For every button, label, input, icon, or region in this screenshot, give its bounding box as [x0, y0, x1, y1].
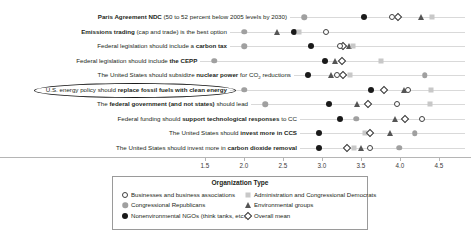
- data-point: [367, 145, 373, 151]
- data-point: [241, 87, 247, 93]
- data-point: [405, 87, 411, 93]
- legend-item: Businesses and business associations: [119, 190, 242, 199]
- data-point: [366, 129, 374, 137]
- legend-marker-icon: [242, 200, 254, 209]
- data-point: [348, 73, 353, 78]
- x-tick: [283, 157, 284, 161]
- x-tick: [322, 157, 323, 161]
- triangle-icon: [245, 202, 251, 208]
- legend-item: Administration and Congressional Democra…: [242, 190, 365, 199]
- data-point: [337, 116, 343, 122]
- data-point: [316, 145, 322, 151]
- data-point: [323, 29, 329, 35]
- scatter-plot-area: Paris Agreement NDC (50 to 52 percent be…: [0, 0, 471, 175]
- data-point: [396, 145, 402, 151]
- row-guide-line: [230, 32, 465, 33]
- data-point: [368, 87, 374, 93]
- data-point: [241, 43, 247, 49]
- row-guide-line: [300, 148, 465, 149]
- data-point: [338, 56, 346, 64]
- category-label: Federal legislation should include the C…: [76, 57, 197, 64]
- data-point: [354, 116, 360, 122]
- category-label: The United States should invest more in …: [116, 144, 297, 151]
- gray-circle-icon: [122, 203, 128, 209]
- legend-item: Congressional Republicans: [119, 200, 242, 209]
- category-label: U.S. energy policy should replace fossil…: [46, 86, 227, 93]
- legend-row: Nonenvironmental NGOs (think tanks, etc.…: [119, 210, 365, 221]
- row-guide-line: [300, 119, 465, 120]
- data-point: [339, 71, 347, 79]
- category-label: Federal funding should support technolog…: [117, 115, 297, 122]
- black-circle-icon: [122, 213, 128, 219]
- x-tick-label: 2.0: [240, 162, 249, 169]
- legend-label: Environmental groups: [254, 201, 313, 208]
- data-point: [379, 58, 384, 63]
- x-tick: [244, 157, 245, 161]
- data-point: [326, 101, 332, 107]
- legend-items: Businesses and business associationsAdmi…: [119, 189, 365, 221]
- category-label: The United States should subsidize nucle…: [98, 71, 291, 81]
- legend-marker-icon: [119, 200, 131, 209]
- data-point: [392, 116, 398, 122]
- legend-marker-icon: [119, 190, 131, 199]
- data-point: [212, 58, 218, 64]
- legend-label: Overall mean: [254, 212, 290, 219]
- x-tick-label: 4.5: [435, 162, 444, 169]
- legend-item: Nonenvironmental NGOs (think tanks, etc.…: [119, 211, 242, 220]
- open-circle-icon: [122, 192, 128, 198]
- data-point: [343, 143, 351, 151]
- data-point: [262, 101, 268, 107]
- legend-label: Nonenvironmental NGOs (think tanks, etc.…: [131, 212, 247, 219]
- legend-row: Congressional RepublicansEnvironmental g…: [119, 200, 365, 211]
- row-guide-line: [290, 17, 465, 18]
- data-point: [337, 43, 343, 49]
- x-tick: [361, 157, 362, 161]
- data-point: [400, 114, 408, 122]
- x-tick: [439, 157, 440, 161]
- category-label: The United States should invest more in …: [169, 129, 297, 136]
- data-point: [301, 14, 307, 20]
- data-point: [379, 85, 387, 93]
- data-point: [418, 14, 424, 20]
- legend-item: Environmental groups: [242, 200, 365, 209]
- category-label: Federal legislation should include a car…: [97, 42, 227, 49]
- data-point: [429, 15, 434, 20]
- legend-marker-icon: [119, 211, 131, 220]
- x-tick-label: 2.5: [279, 162, 288, 169]
- data-point: [412, 130, 418, 136]
- chart-container: Paris Agreement NDC (50 to 52 percent be…: [0, 0, 471, 232]
- data-point: [308, 43, 314, 49]
- data-point: [305, 72, 311, 78]
- legend-marker-icon: [242, 211, 254, 220]
- data-point: [274, 29, 280, 35]
- legend-label: Administration and Congressional Democra…: [254, 191, 376, 198]
- data-point: [394, 13, 402, 21]
- square-icon: [246, 192, 251, 197]
- data-point: [361, 14, 367, 20]
- legend-label: Businesses and business associations: [131, 191, 235, 198]
- x-tick-label: 4.0: [396, 162, 405, 169]
- legend-marker-icon: [242, 190, 254, 199]
- legend-title: Organization Type: [113, 179, 367, 186]
- data-point: [419, 116, 425, 122]
- data-point: [354, 101, 360, 107]
- legend-label: Congressional Republicans: [131, 201, 205, 208]
- category-label: Emissions trading (cap and trade) is the…: [81, 28, 227, 35]
- data-point: [429, 87, 434, 92]
- legend-box: Organization Type Businesses and busines…: [112, 176, 368, 230]
- data-point: [394, 101, 400, 107]
- data-point: [241, 29, 247, 35]
- data-point: [322, 58, 328, 64]
- data-point: [422, 72, 428, 78]
- legend-item: Overall mean: [242, 211, 365, 220]
- category-label: The federal government (and not states) …: [97, 100, 248, 107]
- x-tick-label: 3.5: [357, 162, 366, 169]
- data-point: [364, 100, 372, 108]
- data-point: [316, 130, 322, 136]
- data-point: [297, 29, 302, 34]
- x-tick: [205, 157, 206, 161]
- data-point: [351, 145, 356, 150]
- row-guide-line: [294, 75, 465, 76]
- x-tick: [400, 157, 401, 161]
- x-tick-label: 1.5: [201, 162, 210, 169]
